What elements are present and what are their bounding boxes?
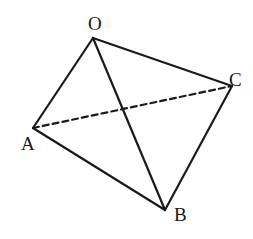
edge-oc bbox=[93, 38, 232, 86]
edge-ac bbox=[33, 86, 232, 128]
vertex-label-b: B bbox=[174, 204, 187, 225]
edge-ab bbox=[33, 128, 165, 210]
edges bbox=[33, 38, 232, 210]
tetrahedron-diagram: OABC bbox=[0, 0, 253, 239]
edge-bc bbox=[165, 86, 232, 210]
edge-oa bbox=[33, 38, 93, 128]
edge-ob bbox=[93, 38, 165, 210]
vertex-label-o: O bbox=[88, 13, 102, 34]
vertex-labels: OABC bbox=[21, 13, 242, 225]
vertex-label-c: C bbox=[229, 69, 242, 90]
vertex-label-a: A bbox=[21, 133, 35, 154]
